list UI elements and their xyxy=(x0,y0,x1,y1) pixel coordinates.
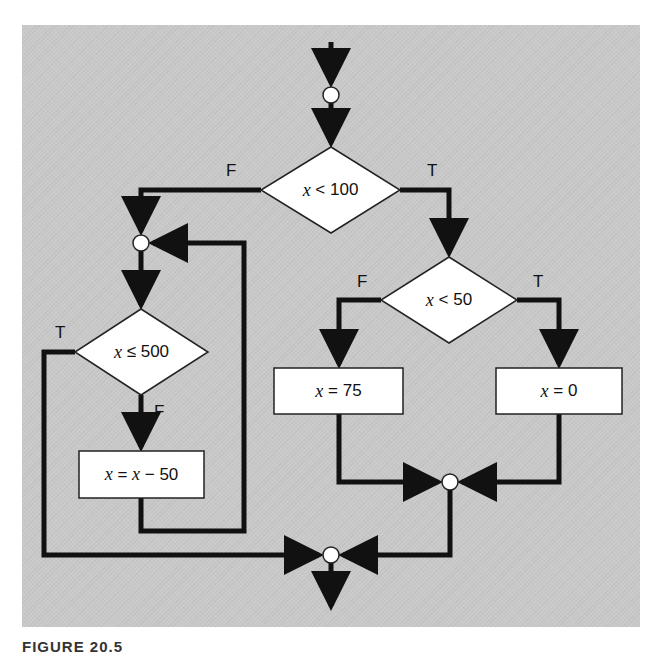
figure-caption: FIGURE 20.5 xyxy=(22,638,123,655)
label-true-mid: T xyxy=(533,273,543,290)
decision-top-text: x < 100 xyxy=(261,175,400,205)
box-75-text: x = 75 xyxy=(274,368,403,414)
box-0-text: x = 0 xyxy=(496,368,622,414)
decision-mid-text: x < 50 xyxy=(381,285,517,315)
true-branch-mid xyxy=(517,300,559,364)
connector-merge xyxy=(442,474,458,490)
true-branch-top xyxy=(400,190,449,253)
connector-final xyxy=(323,547,339,563)
label-false-top: F xyxy=(226,162,236,179)
label-false-loop: F xyxy=(154,403,164,420)
merge-to-final xyxy=(343,490,450,555)
connector-entry xyxy=(323,87,339,103)
label-true-loop: T xyxy=(55,324,65,341)
box75-to-merge xyxy=(339,414,438,482)
box0-to-merge xyxy=(462,414,559,482)
false-branch-mid xyxy=(339,300,381,364)
false-branch-top xyxy=(141,190,261,231)
connector-loop xyxy=(133,235,149,251)
label-true-top: T xyxy=(427,162,437,179)
box-sub-text: x = x − 50 xyxy=(79,451,204,498)
decision-loop-text: x ≤ 500 xyxy=(75,337,208,367)
label-false-mid: F xyxy=(357,273,367,290)
